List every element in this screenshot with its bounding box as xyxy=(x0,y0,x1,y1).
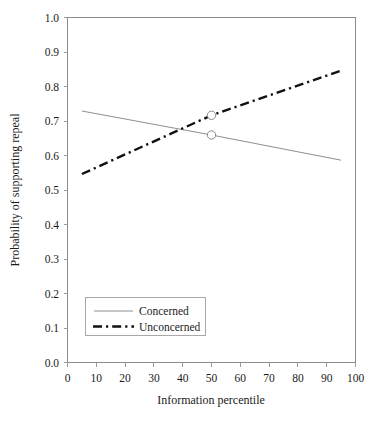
data-point-marker-concerned xyxy=(207,131,215,139)
y-tick-label: 0.6 xyxy=(45,150,60,162)
x-tick-label: 30 xyxy=(148,372,160,384)
chart-figure: 1.0 0.9 0.8 0.7 0.6 0.5 0.4 0.3 0.2 0.1 … xyxy=(0,0,380,425)
x-tick-label: 20 xyxy=(119,372,131,384)
y-tick-label: 0.1 xyxy=(45,322,60,334)
x-tick-label: 40 xyxy=(177,372,189,384)
x-tick-label: 90 xyxy=(321,372,333,384)
y-tick-label: 0.8 xyxy=(45,81,60,93)
x-tick-label: 70 xyxy=(263,372,275,384)
y-tick-label: 1.0 xyxy=(45,12,60,24)
y-tick-marks xyxy=(64,18,68,363)
x-tick-label: 100 xyxy=(347,372,365,384)
y-tick-label: 0.2 xyxy=(45,288,60,300)
y-tick-label: 0.5 xyxy=(45,184,60,196)
x-tick-label: 10 xyxy=(91,372,103,384)
x-axis-title: Information percentile xyxy=(157,393,265,407)
x-tick-marks xyxy=(68,363,356,367)
y-tick-label: 0.3 xyxy=(45,253,60,265)
y-tick-label: 0.0 xyxy=(45,357,60,369)
data-point-marker-unconcerned xyxy=(207,111,215,119)
x-tick-label: 50 xyxy=(206,372,218,384)
legend: Concerned Unconcerned xyxy=(86,298,206,336)
y-tick-labels: 1.0 0.9 0.8 0.7 0.6 0.5 0.4 0.3 0.2 0.1 … xyxy=(45,12,60,369)
series-line-unconcerned xyxy=(82,71,341,174)
y-tick-label: 0.4 xyxy=(45,219,60,231)
legend-label-concerned: Concerned xyxy=(139,305,189,317)
y-axis-title: Probability of supporting repeal xyxy=(8,113,22,267)
x-tick-labels: 0 10 20 30 40 50 60 70 80 90 100 xyxy=(65,372,365,384)
legend-label-unconcerned: Unconcerned xyxy=(139,321,201,333)
x-tick-label: 60 xyxy=(235,372,247,384)
x-tick-label: 80 xyxy=(292,372,304,384)
y-tick-label: 0.7 xyxy=(45,115,60,127)
chart-canvas: 1.0 0.9 0.8 0.7 0.6 0.5 0.4 0.3 0.2 0.1 … xyxy=(0,0,380,425)
y-tick-label: 0.9 xyxy=(45,46,60,58)
x-tick-label: 0 xyxy=(65,372,71,384)
